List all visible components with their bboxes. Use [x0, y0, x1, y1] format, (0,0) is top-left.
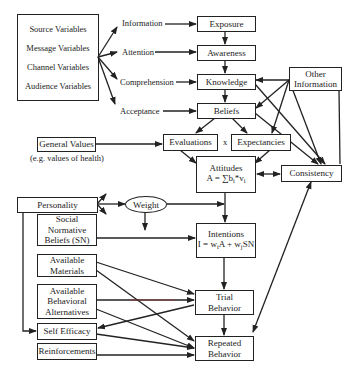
intentions-box: Intentions I = wiA + wjSN: [196, 223, 256, 258]
self-efficacy-label: Self Efficacy: [43, 326, 90, 337]
trial-line2: Behavior: [208, 303, 241, 314]
reinforcements-box: Reinforcements: [37, 343, 97, 360]
consistency-label: Consistency: [290, 168, 334, 179]
general-values-label: General Values: [39, 139, 94, 150]
sn-line2: Normative: [48, 225, 87, 236]
message-variables: Message Variables: [26, 43, 89, 53]
weight-label: Weight: [133, 200, 159, 210]
am-line2: Materials: [50, 266, 84, 277]
exposure-label: Exposure: [210, 19, 244, 30]
awareness-box: Awareness: [197, 45, 256, 61]
attitudes-box: Attitudes A = ∑bi*vi: [196, 156, 256, 193]
intentions-title: Intentions: [208, 229, 244, 240]
aba-line3: Alternatives: [45, 307, 89, 318]
social-normative-beliefs-box: Social Normative Beliefs (SN): [37, 214, 97, 246]
available-behavioral-alternatives-box: Available Behavioral Alternatives: [37, 284, 97, 319]
consistency-box: Consistency: [281, 165, 342, 182]
exposure-box: Exposure: [197, 16, 256, 32]
evaluations-box: Evaluations: [163, 134, 218, 151]
communication-input-variables-box: Source Variables Message Variables Chann…: [17, 14, 99, 101]
personality-box: Personality: [17, 197, 98, 213]
attitudes-formula: A = ∑bi*vi: [206, 173, 245, 187]
attention-label: Attention: [122, 47, 154, 57]
repeated-behavior-box: Repeated Behavior: [195, 336, 254, 361]
multiply-symbol: x: [223, 137, 227, 147]
beliefs-label: Beliefs: [214, 106, 240, 117]
intentions-formula: I = wiA + wjSN: [198, 239, 254, 253]
personality-label: Personality: [37, 200, 78, 211]
trial-line1: Trial: [216, 292, 233, 303]
channel-variables: Channel Variables: [27, 62, 89, 72]
acceptance-label: Acceptance: [120, 106, 160, 116]
awareness-label: Awareness: [207, 48, 246, 59]
source-variables: Source Variables: [29, 24, 86, 34]
repeated-line2: Behavior: [208, 349, 241, 360]
expectancies-label: Expectancies: [237, 137, 284, 148]
repeated-line1: Repeated: [208, 338, 241, 349]
sn-line3: Beliefs (SN): [44, 235, 89, 246]
trial-behavior-box: Trial Behavior: [195, 290, 254, 315]
knowledge-label: Knowledge: [206, 77, 248, 88]
general-values-note: (e.g. values of health): [30, 153, 104, 163]
general-values-box: General Values: [37, 137, 96, 152]
am-line1: Available: [50, 255, 84, 266]
evaluations-label: Evaluations: [169, 137, 212, 148]
other-information-box: Other Information: [289, 67, 342, 91]
information-label: Information: [122, 18, 163, 28]
self-efficacy-box: Self Efficacy: [37, 323, 97, 340]
knowledge-box: Knowledge: [197, 74, 256, 90]
comprehension-label: Comprehension: [120, 77, 174, 87]
audience-variables: Audience Variables: [25, 81, 91, 91]
reinforcements-label: Reinforcements: [39, 346, 96, 357]
expectancies-box: Expectancies: [231, 134, 291, 151]
other-information-line1: Other: [305, 69, 326, 80]
aba-line2: Behavioral: [47, 296, 87, 307]
beliefs-box: Beliefs: [197, 103, 256, 119]
other-information-line2: Information: [294, 79, 337, 90]
weight-ellipse: Weight: [125, 196, 167, 213]
available-materials-box: Available Materials: [37, 254, 97, 277]
sn-line1: Social: [56, 214, 79, 225]
aba-line1: Available: [50, 286, 84, 297]
attitudes-title: Attitudes: [210, 163, 243, 174]
